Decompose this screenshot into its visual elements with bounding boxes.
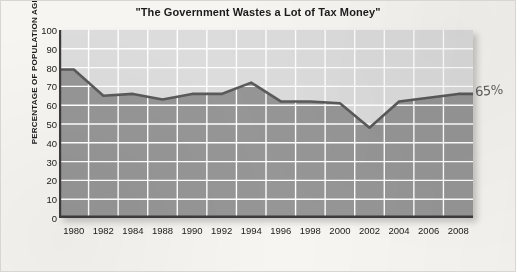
y-tick-10: 10 <box>19 194 57 205</box>
x-tick-1984: 1984 <box>122 225 143 236</box>
handwritten-annotation: 65% <box>474 82 503 99</box>
y-tick-60: 60 <box>19 100 57 111</box>
x-tick-1982: 1982 <box>93 225 114 236</box>
x-tick-1988: 1988 <box>152 225 173 236</box>
chart-plot-svg <box>59 30 473 218</box>
y-tick-50: 50 <box>19 119 57 130</box>
y-tick-80: 80 <box>19 62 57 73</box>
x-tick-1994: 1994 <box>241 225 262 236</box>
y-tick-0: 0 <box>19 213 57 224</box>
y-tick-40: 40 <box>19 137 57 148</box>
x-tick-2002: 2002 <box>359 225 380 236</box>
y-tick-20: 20 <box>19 175 57 186</box>
x-tick-2004: 2004 <box>388 225 409 236</box>
y-tick-90: 90 <box>19 43 57 54</box>
x-tick-2006: 2006 <box>418 225 439 236</box>
x-axis-tick-labels: 1980198219841988199019921994199619982000… <box>59 225 473 247</box>
y-axis-tick-labels: 1009080706050403020100 <box>19 25 57 221</box>
y-tick-100: 100 <box>19 25 57 36</box>
x-tick-1990: 1990 <box>181 225 202 236</box>
x-tick-1996: 1996 <box>270 225 291 236</box>
chart-title: "The Government Wastes a Lot of Tax Mone… <box>1 6 515 18</box>
y-tick-30: 30 <box>19 156 57 167</box>
y-tick-70: 70 <box>19 81 57 92</box>
x-tick-2008: 2008 <box>448 225 469 236</box>
x-tick-2000: 2000 <box>329 225 350 236</box>
x-tick-1992: 1992 <box>211 225 232 236</box>
plot-area <box>59 30 473 218</box>
x-tick-1998: 1998 <box>300 225 321 236</box>
x-tick-1980: 1980 <box>63 225 84 236</box>
chart-figure: "The Government Wastes a Lot of Tax Mone… <box>0 0 516 272</box>
